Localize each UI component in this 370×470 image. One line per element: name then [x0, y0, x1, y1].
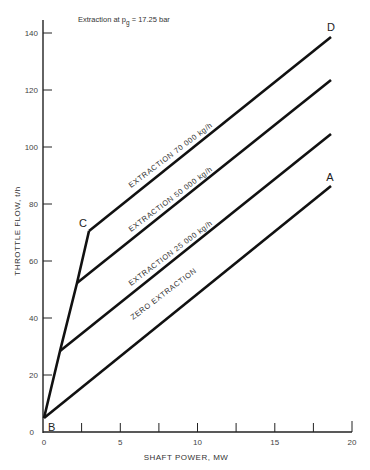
b-c-envelope-line [44, 231, 89, 418]
x-tick-label: 0 [42, 438, 47, 447]
x-tick-label: 10 [193, 438, 202, 447]
y-tick-label: 140 [25, 29, 39, 38]
point-a-label: A [326, 171, 334, 183]
x-tick-label: 15 [270, 438, 279, 447]
y-tick-label: 40 [29, 314, 38, 323]
y-tick-label: 0 [30, 428, 35, 437]
y-tick-label: 60 [29, 257, 38, 266]
y-tick-label: 80 [29, 200, 38, 209]
extraction-50000-line [77, 80, 331, 283]
x-tick-label: 20 [348, 438, 357, 447]
x-tick-label: 5 [118, 438, 123, 447]
y-tick-label: 100 [25, 143, 39, 152]
y-tick-label: 120 [25, 86, 39, 95]
y-tick-labels: 0 20 40 60 80 100 120 140 [25, 29, 39, 437]
extraction-pressure-note: Extraction at pg = 17.25 bar [78, 15, 170, 27]
y-ticks [43, 33, 52, 375]
throttle-flow-chart: 0 20 40 60 80 100 120 140 0 5 10 15 20 S… [0, 0, 370, 470]
x-axis-title: SHAFT POWER, MW [144, 453, 229, 462]
y-tick-label: 20 [29, 371, 38, 380]
x-tick-labels: 0 5 10 15 20 [42, 438, 357, 447]
x-ticks [82, 421, 352, 432]
zero-extraction-line [44, 186, 331, 418]
extraction-25000-line [60, 134, 331, 351]
point-b-label: B [48, 421, 55, 433]
y-axis-title: THROTTLE FLOW, t/h [13, 186, 22, 275]
extraction-70000-line [89, 37, 331, 231]
point-d-label: D [327, 21, 335, 33]
extraction-25000-label: EXTRACTION 25 000 kg/h [127, 219, 215, 288]
point-c-label: C [79, 217, 87, 229]
